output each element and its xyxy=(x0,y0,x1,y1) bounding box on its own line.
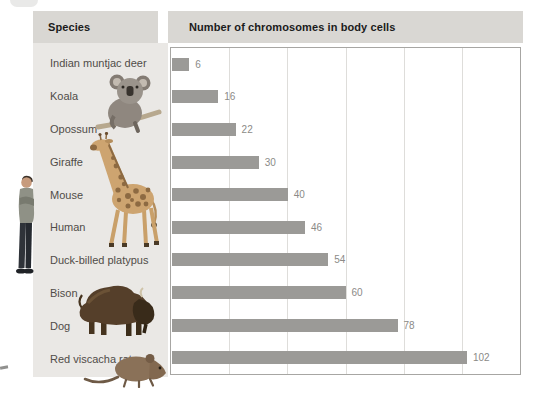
bar-value-label: 16 xyxy=(224,91,235,102)
bison-photo xyxy=(76,278,158,340)
chart-column-header: Number of chromosomes in body cells xyxy=(168,11,523,43)
bar-row: 30 xyxy=(172,146,519,179)
bar-value-label: 54 xyxy=(334,254,345,265)
bar-value-label: 30 xyxy=(265,157,276,168)
bar-value-label: 22 xyxy=(242,124,253,135)
bar-row: 46 xyxy=(172,211,519,244)
bar xyxy=(172,351,467,364)
chromosome-chart-page: Species Number of chromosomes in body ce… xyxy=(0,0,533,395)
bar-chart-plot-area: 61622304046546078102 xyxy=(170,47,521,375)
bar xyxy=(172,319,398,332)
bar xyxy=(172,188,288,201)
bar-row: 6 xyxy=(172,48,519,81)
bar-value-label: 46 xyxy=(311,222,322,233)
bar-row: 22 xyxy=(172,113,519,146)
giraffe-photo xyxy=(88,132,170,252)
bar-row: 16 xyxy=(172,81,519,114)
bar xyxy=(172,221,305,234)
person-photo xyxy=(10,175,40,279)
species-column-header: Species xyxy=(33,11,158,43)
scan-artifact-top xyxy=(10,0,38,7)
bar-value-label: 78 xyxy=(404,320,415,331)
bar-row: 40 xyxy=(172,178,519,211)
bar xyxy=(172,123,236,136)
scan-artifact-bottom xyxy=(0,365,8,369)
bar-value-label: 6 xyxy=(195,59,201,70)
bar xyxy=(172,253,328,266)
koala-photo xyxy=(92,72,164,134)
bar-value-label: 60 xyxy=(352,287,363,298)
bar xyxy=(172,58,189,71)
bar-group: 61622304046546078102 xyxy=(172,48,519,374)
bar-row: 60 xyxy=(172,276,519,309)
red-viscacha-rat-photo xyxy=(82,348,168,388)
bar-row: 78 xyxy=(172,309,519,342)
bar xyxy=(172,90,218,103)
bar xyxy=(172,156,259,169)
bar xyxy=(172,286,346,299)
bar-row: 54 xyxy=(172,244,519,277)
bar-value-label: 40 xyxy=(294,189,305,200)
bar-row: 102 xyxy=(172,341,519,374)
bar-value-label: 102 xyxy=(473,352,490,363)
